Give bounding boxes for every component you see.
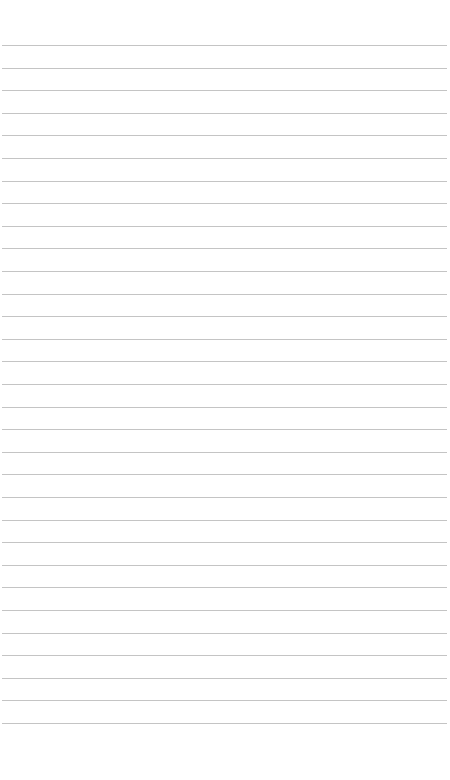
ruled-line	[2, 497, 447, 498]
ruled-line	[2, 45, 447, 46]
ruled-line	[2, 203, 447, 204]
ruled-line	[2, 723, 447, 724]
ruled-line	[2, 316, 447, 317]
ruled-line	[2, 339, 447, 340]
ruled-line	[2, 429, 447, 430]
ruled-line	[2, 384, 447, 385]
ruled-line	[2, 90, 447, 91]
ruled-line	[2, 158, 447, 159]
ruled-line	[2, 565, 447, 566]
ruled-line	[2, 181, 447, 182]
ruled-line	[2, 700, 447, 701]
ruled-line	[2, 294, 447, 295]
ruled-line	[2, 226, 447, 227]
ruled-line	[2, 248, 447, 249]
ruled-line	[2, 587, 447, 588]
ruled-line	[2, 135, 447, 136]
ruled-line	[2, 361, 447, 362]
lined-paper-page	[0, 0, 450, 780]
ruled-line	[2, 520, 447, 521]
ruled-line	[2, 452, 447, 453]
ruled-line	[2, 407, 447, 408]
ruled-line	[2, 68, 447, 69]
ruled-line	[2, 271, 447, 272]
ruled-line	[2, 113, 447, 114]
ruled-line	[2, 678, 447, 679]
ruled-line	[2, 655, 447, 656]
ruled-line	[2, 633, 447, 634]
ruled-line	[2, 542, 447, 543]
ruled-line	[2, 474, 447, 475]
ruled-line	[2, 610, 447, 611]
